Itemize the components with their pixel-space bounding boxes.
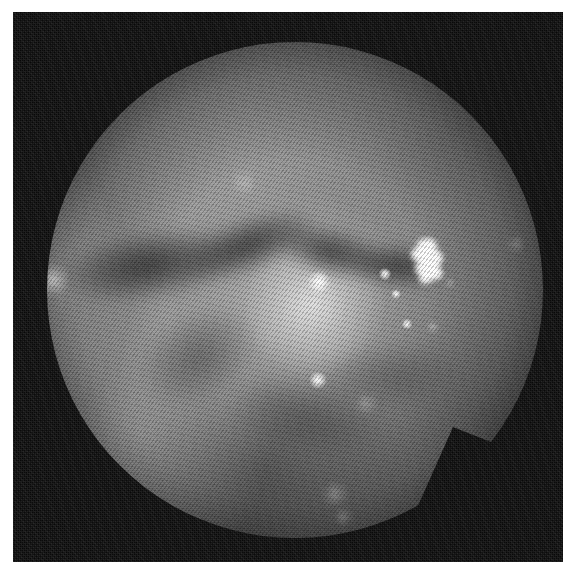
- cluster-blob-5: [419, 272, 433, 284]
- photographic-plate: [13, 12, 563, 562]
- circular-field-of-view: [13, 12, 563, 562]
- endoscopy-image-viewer: [0, 0, 575, 574]
- saturated-reflection-cluster: [409, 238, 451, 290]
